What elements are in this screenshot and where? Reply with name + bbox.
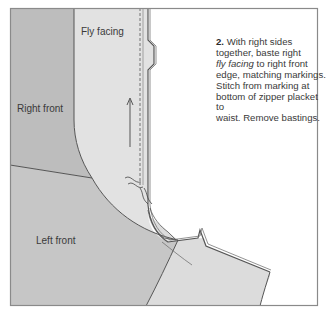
right-front-label: Right front bbox=[17, 103, 63, 114]
instruction-line-6: bottom of zipper placket to bbox=[216, 91, 318, 113]
instruction-line-7: waist. Remove bastings. bbox=[216, 112, 320, 123]
instruction-line-2: together, baste right bbox=[216, 47, 301, 58]
step-instructions: 2. With right sides together, baste righ… bbox=[216, 37, 328, 124]
instruction-emphasis: fly facing bbox=[216, 58, 254, 69]
instruction-line-5: Stitch from marking at bbox=[216, 80, 309, 91]
instruction-line-1: With right sides bbox=[227, 36, 293, 47]
left-front-label: Left front bbox=[36, 235, 75, 246]
instruction-line-4: edge, matching markings. bbox=[216, 69, 326, 80]
instruction-line-3: to right front bbox=[254, 58, 308, 69]
step-number: 2. bbox=[216, 36, 224, 47]
fly-facing-label: Fly facing bbox=[81, 26, 124, 37]
